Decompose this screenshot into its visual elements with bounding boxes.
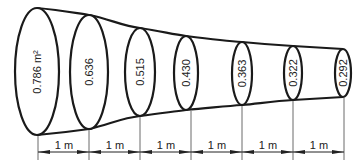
section-area-label: 0.636: [83, 58, 95, 86]
tapering-tube-diagram: 0.786 m² 0.636 0.515 0.430 0.363 0.322 0…: [0, 0, 364, 166]
spacing-label: 1 m: [157, 139, 175, 151]
section-area-label: 0.292: [337, 59, 349, 87]
section-3: 0.515: [125, 28, 155, 116]
spacing-label: 1 m: [259, 139, 277, 151]
section-6: 0.322: [284, 46, 302, 100]
section-2: 0.636: [70, 15, 108, 129]
spacing-labels: 1 m 1 m 1 m 1 m 1 m 1 m: [55, 139, 328, 151]
spacing-label: 1 m: [106, 139, 124, 151]
section-4: 0.430: [174, 36, 198, 110]
section-7: 0.292: [335, 49, 351, 97]
section-area-label: 0.786 m²: [31, 50, 43, 94]
section-5: 0.363: [232, 42, 252, 105]
section-1: 0.786 m²: [15, 8, 59, 135]
section-area-label: 0.515: [134, 58, 146, 86]
spacing-label: 1 m: [55, 139, 73, 151]
spacing-label: 1 m: [310, 139, 328, 151]
section-area-label: 0.363: [236, 60, 248, 88]
section-area-label: 0.430: [180, 59, 192, 87]
spacing-label: 1 m: [208, 139, 226, 151]
section-area-label: 0.322: [287, 59, 299, 87]
